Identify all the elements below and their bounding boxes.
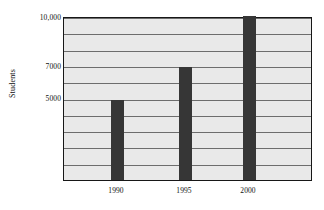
x-tick-label-1990: 1990 bbox=[93, 186, 139, 195]
x-axis-tick-labels: 1990 1995 2000 bbox=[0, 0, 324, 210]
bar-chart: Students 10,000 7000 5000 1990 1995 bbox=[0, 0, 324, 210]
x-tick-label-1995: 1995 bbox=[161, 186, 207, 195]
x-tick-label-2000: 2000 bbox=[225, 186, 271, 195]
